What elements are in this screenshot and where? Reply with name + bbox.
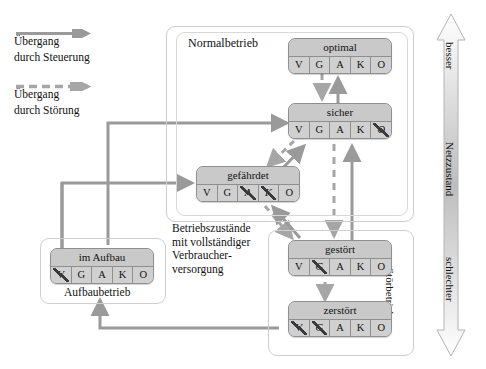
state-cells-gestoert: VGAKO [289, 259, 391, 275]
state-cells-optimal: VGAKO [289, 57, 391, 73]
state-cell-gestoert-g: G [310, 259, 331, 275]
state-cell-gefaehrdet-a: A [238, 185, 259, 201]
caption-betriebszustaende: Betriebszustände mit vollständiger Verbr… [172, 222, 251, 276]
diagram-canvas: Normalbetrieb Störbetrieb Aufbaubetrieb … [0, 0, 486, 369]
scale-label-schlechter: schlechter [444, 257, 456, 302]
state-cell-zerstoert-v: V [289, 320, 310, 336]
arrow-zerstoert-to-im-aufbau [100, 300, 279, 328]
state-cell-zerstoert-a: A [330, 320, 351, 336]
state-box-gefaehrdet[interactable]: gefährdet VGAKO [196, 166, 300, 202]
legend-item-steuerung: Übergang durch Steuerung [14, 24, 142, 64]
state-cell-sicher-v: V [289, 122, 310, 138]
state-cell-gestoert-v: V [289, 259, 310, 275]
state-cell-sicher-a: A [330, 122, 351, 138]
state-cell-gefaehrdet-g: G [218, 185, 239, 201]
state-cell-optimal-o: O [371, 57, 391, 73]
state-cell-gestoert-k: K [351, 259, 372, 275]
state-box-optimal[interactable]: optimal VGAKO [288, 38, 392, 74]
state-cells-gefaehrdet: VGAKO [197, 185, 299, 201]
state-cell-optimal-v: V [289, 57, 310, 73]
state-title-gestoert: gestört [289, 241, 391, 259]
state-cell-im-aufbau-o: O [133, 267, 153, 283]
state-cell-gestoert-o: O [371, 259, 391, 275]
group-label-aufbaubetrieb: Aufbaubetrieb [64, 286, 130, 300]
state-cell-im-aufbau-k: K [113, 267, 134, 283]
state-title-zerstoert: zerstört [289, 302, 391, 320]
legend-label-stoerung-line2: durch Störung [14, 104, 142, 118]
state-cells-sicher: VGAKO [289, 122, 391, 138]
solid-arrow-icon [14, 24, 100, 33]
state-title-sicher: sicher [289, 104, 391, 122]
state-box-im-aufbau[interactable]: im Aufbau VGAKO [50, 248, 154, 284]
group-label-normalbetrieb: Normalbetrieb [188, 36, 258, 51]
state-cells-im-aufbau: VGAKO [51, 267, 153, 283]
state-box-zerstoert[interactable]: zerstört VGAKO [288, 301, 392, 337]
state-cell-im-aufbau-v: V [51, 267, 72, 283]
state-box-sicher[interactable]: sicher VGAKO [288, 103, 392, 139]
scale-label-netzzustand: Netzzustand [444, 142, 456, 196]
state-cell-gestoert-a: A [330, 259, 351, 275]
legend: Übergang durch Steuerung Übergang durch … [14, 24, 142, 130]
scale-label-besser: besser [444, 42, 456, 70]
state-cell-sicher-k: K [351, 122, 372, 138]
state-cell-sicher-o: O [371, 122, 391, 138]
state-box-gestoert[interactable]: gestört VGAKO [288, 240, 392, 276]
state-cell-gefaehrdet-k: K [259, 185, 280, 201]
state-title-gefaehrdet: gefährdet [197, 167, 299, 185]
state-cells-zerstoert: VGAKO [289, 320, 391, 336]
state-cell-gefaehrdet-v: V [197, 185, 218, 201]
state-cell-optimal-g: G [310, 57, 331, 73]
dashed-arrow-icon [14, 77, 100, 86]
state-cell-im-aufbau-a: A [92, 267, 113, 283]
state-cell-zerstoert-o: O [371, 320, 391, 336]
legend-label-steuerung-line2: durch Steuerung [14, 51, 142, 65]
state-cell-optimal-k: K [351, 57, 372, 73]
state-cell-sicher-g: G [310, 122, 331, 138]
state-title-optimal: optimal [289, 39, 391, 57]
state-cell-zerstoert-k: K [351, 320, 372, 336]
state-cell-im-aufbau-g: G [72, 267, 93, 283]
netzzustand-scale: besser Netzzustand schlechter [430, 14, 474, 356]
legend-item-stoerung: Übergang durch Störung [14, 77, 142, 117]
state-cell-optimal-a: A [330, 57, 351, 73]
state-title-im-aufbau: im Aufbau [51, 249, 153, 267]
state-cell-gefaehrdet-o: O [279, 185, 299, 201]
state-cell-zerstoert-g: G [310, 320, 331, 336]
